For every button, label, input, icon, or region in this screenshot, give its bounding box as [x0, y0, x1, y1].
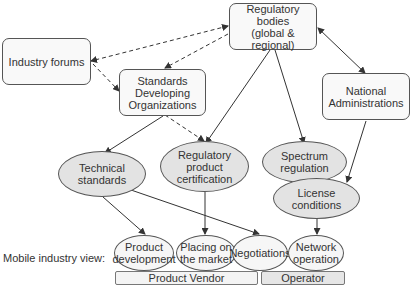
node-label-line: Regulatory — [230, 3, 316, 15]
node-regulatory-product-certification: Regulatory product certification — [160, 141, 249, 192]
node-national-administrations: National Administrations — [322, 73, 410, 120]
role-bar-label: Product Vendor — [149, 272, 225, 284]
node-label-line: Technical — [78, 162, 126, 174]
node-label-line: product — [177, 161, 233, 173]
node-label-line: conditions — [292, 199, 342, 211]
edge-regbodies-forums — [91, 26, 228, 61]
activity-label-line: operation — [293, 253, 339, 265]
node-label-line: Regulatory — [177, 149, 233, 161]
edge-sdo-cert — [165, 115, 204, 141]
node-label-line: (global & regional) — [230, 27, 316, 51]
role-bar-operator: Operator — [261, 271, 345, 285]
activity-product-development: Product development — [114, 235, 174, 271]
node-regulatory-bodies: Regulatory bodies (global & regional) — [229, 3, 317, 50]
node-label-line: Organizations — [129, 99, 197, 111]
role-bar-label: Operator — [281, 272, 324, 284]
node-label-line: National — [328, 85, 403, 97]
node-label-line: regulation — [280, 162, 328, 174]
edge-regbodies-sdo — [165, 34, 228, 68]
node-label-line: Developing — [129, 87, 197, 99]
row-label: Mobile industry view: — [3, 252, 105, 264]
node-label-line: standards — [78, 174, 126, 186]
edge-forums-sdo — [93, 64, 119, 91]
node-sdo: Standards Developing Organizations — [119, 69, 206, 116]
node-label-line: Standards — [129, 75, 197, 87]
edge-regbodies-national — [318, 28, 365, 73]
edge-national-license — [347, 121, 366, 182]
activity-label: Negotiations — [229, 247, 290, 259]
node-label-line: bodies — [230, 15, 316, 27]
node-label-line: certification — [177, 173, 233, 185]
node-label-line: Administrations — [328, 97, 403, 109]
node-label: Industry forums — [9, 56, 85, 68]
activity-label-line: development — [113, 253, 176, 265]
activity-negotiations: Negotiations — [232, 235, 288, 271]
node-industry-forums: Industry forums — [2, 38, 91, 85]
node-spectrum-regulation: Spectrum regulation — [262, 141, 347, 183]
activity-label-line: Network — [293, 241, 339, 253]
node-technical-standards: Technical standards — [58, 151, 146, 197]
activity-label-line: Placing on — [180, 241, 232, 253]
edge-regbodies-spectrum — [275, 50, 304, 143]
edge-technical-productdev — [103, 197, 145, 234]
activity-network-operation: Network operation — [288, 235, 344, 271]
edge-sdo-technical — [105, 116, 163, 153]
activity-label-line: the market — [180, 253, 232, 265]
edge-regbodies-cert — [206, 50, 270, 143]
node-label-line: License — [292, 187, 342, 199]
node-license-conditions: License conditions — [273, 178, 360, 219]
activity-label-line: Product — [113, 241, 176, 253]
edge-technical-negotiations — [131, 190, 259, 234]
role-bar-product-vendor: Product Vendor — [115, 271, 258, 285]
node-label-line: Spectrum — [280, 150, 328, 162]
activity-placing-on-market: Placing on the market — [176, 235, 236, 271]
